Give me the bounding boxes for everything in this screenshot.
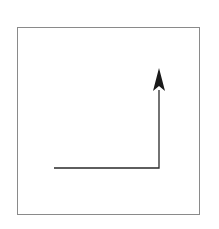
- diagram-caption: [0, 222, 219, 229]
- arrow-diagram: [0, 0, 219, 229]
- arrow-path-line: [54, 90, 159, 168]
- arrow-up-icon: [153, 68, 165, 91]
